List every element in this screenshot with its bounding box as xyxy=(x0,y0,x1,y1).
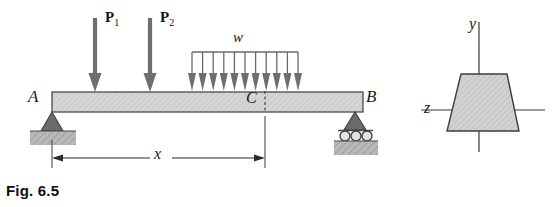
support-label-a: A xyxy=(28,88,38,105)
beam-body xyxy=(52,92,363,112)
axis-label-y: y xyxy=(469,16,476,32)
section-label-c: C xyxy=(246,90,257,106)
figure-container: A B C w x y z P1 P2 Fig. 6.5 xyxy=(0,0,554,207)
p2-symbol: P xyxy=(160,9,169,25)
point-load-label-p1: P1 xyxy=(105,10,119,28)
pin-support-a xyxy=(30,112,76,145)
roller-support-b xyxy=(334,112,378,155)
point-load-p1-arrow xyxy=(89,18,102,92)
p2-subscript: 2 xyxy=(169,17,174,28)
p1-subscript: 1 xyxy=(114,17,119,28)
distributed-load-w xyxy=(188,52,302,91)
cross-section-trapezoid xyxy=(447,74,519,131)
p1-symbol: P xyxy=(105,9,114,25)
point-load-p2-arrow xyxy=(144,18,157,92)
point-load-label-p2: P2 xyxy=(160,10,174,28)
figure-caption: Fig. 6.5 xyxy=(6,182,59,199)
distributed-load-arrows xyxy=(188,52,302,91)
support-label-b: B xyxy=(366,88,376,105)
axis-label-z: z xyxy=(424,100,430,116)
dimension-label-x: x xyxy=(154,146,161,162)
distributed-load-label: w xyxy=(233,30,243,45)
